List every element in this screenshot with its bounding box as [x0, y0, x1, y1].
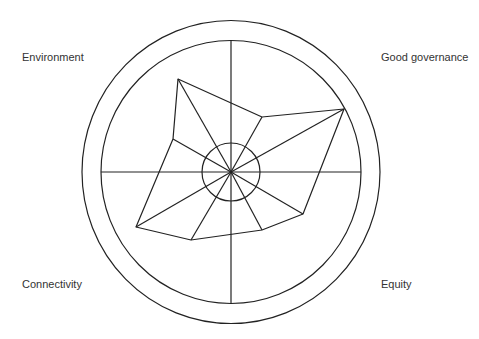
label-connectivity: Connectivity	[22, 278, 82, 291]
spoke-6	[136, 172, 231, 227]
polygon-spokes	[136, 79, 344, 240]
score-polygon	[136, 79, 344, 240]
spoke-5	[191, 172, 231, 240]
spoke-2	[231, 109, 344, 172]
label-equity: Equity	[381, 278, 412, 291]
spoke-0	[178, 79, 231, 172]
label-good-governance: Good governance	[381, 51, 468, 64]
label-environment: Environment	[22, 51, 84, 64]
